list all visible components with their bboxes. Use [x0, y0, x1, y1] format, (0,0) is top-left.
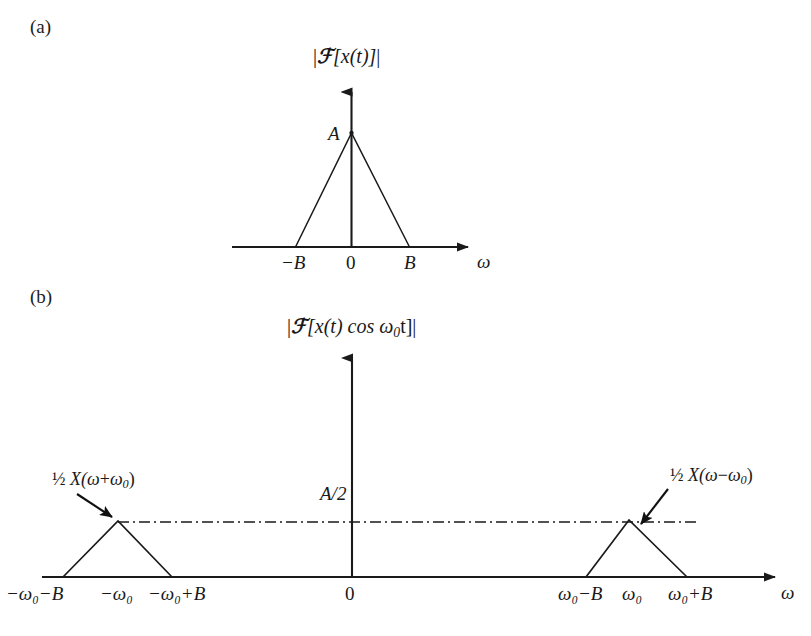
panel-b-right-callout-prefix: ½ — [670, 465, 688, 485]
panel-b-right-callout-arg-b: ω — [728, 465, 741, 485]
panel-b-left-callout-prefix: ½ — [52, 469, 70, 489]
panel-a-peak-marker — [349, 131, 353, 135]
panel-b-title-close-bar: | — [412, 315, 416, 337]
panel-b-left-callout-func: X( — [70, 469, 87, 489]
panel-a-graph — [232, 92, 468, 247]
panel-b-title-script-f: ℱ — [291, 315, 307, 337]
panel-a-label: (a) — [30, 16, 51, 38]
panel-a-title-close-bar: | — [376, 45, 380, 67]
panel-b-left-callout-arg-a: ω — [87, 469, 100, 489]
panel-a-title: |ℱ[x(t)]| — [313, 46, 380, 66]
panel-b-right-callout-func: X( — [688, 465, 705, 485]
panel-b-title-omega: ω — [379, 315, 393, 337]
panel-b-title-body-pre: [x(t) cos — [307, 315, 379, 337]
panel-a-title-script-f: ℱ — [317, 45, 333, 67]
panel-b-amplitude-label: A/2 — [320, 484, 346, 503]
panel-b-right-callout-arrow — [641, 489, 668, 524]
panel-b-left-triangle-spectrum — [63, 521, 172, 577]
panel-a-tick-b: B — [404, 253, 416, 272]
panel-a-amplitude-label: A — [328, 124, 340, 143]
panel-b-graph — [42, 358, 775, 577]
panel-b-tick-omega0-plus-b: ω₀+B — [668, 584, 712, 603]
panel-b-tick-zero: 0 — [345, 584, 355, 603]
panel-b-label: (b) — [30, 286, 52, 308]
panel-b-tick-minus-omega0: −ω₀ — [100, 584, 133, 603]
panel-b-tick-omega0-minus-b: ω₀−B — [558, 584, 602, 603]
panel-b-left-callout-arg-b: ω — [110, 469, 123, 489]
panel-b-title: |ℱ[x(t) cos ω0t]| — [287, 316, 416, 339]
panel-b-left-callout-arrow — [77, 494, 112, 517]
panel-a-tick-zero: 0 — [346, 253, 356, 272]
panel-b-tick-omega0: ω₀ — [622, 584, 642, 603]
panel-a-title-body: [x(t)] — [333, 45, 376, 67]
panel-b-right-callout-arg-a: ω — [705, 465, 718, 485]
panel-a-axis-label-omega: ω — [477, 252, 490, 271]
panel-b-title-body-post: t] — [400, 315, 412, 337]
panel-b-tick-minus-omega0-plus-b: −ω₀+B — [148, 584, 205, 603]
panel-b-right-triangle-spectrum — [586, 520, 687, 577]
panel-b-left-callout-op: + — [100, 469, 110, 489]
panel-b-tick-minus-omega0-minus-b: −ω₀−B — [6, 584, 63, 603]
panel-b-left-callout-label: ½ X(ω+ω0) — [52, 470, 135, 491]
figure-container: (a) |ℱ[x(t)]| A −B 0 B ω (b) |ℱ[x(t) cos… — [0, 0, 811, 636]
panel-a-tick-minus-b: −B — [281, 253, 305, 272]
panel-b-right-callout-label: ½ X(ω−ω0) — [670, 466, 753, 487]
panel-b-right-callout-op: − — [718, 465, 728, 485]
panel-b-axis-label-omega: ω — [781, 583, 794, 602]
panel-b-left-callout-suffix: ) — [129, 469, 135, 489]
panel-b-right-callout-suffix: ) — [747, 465, 753, 485]
